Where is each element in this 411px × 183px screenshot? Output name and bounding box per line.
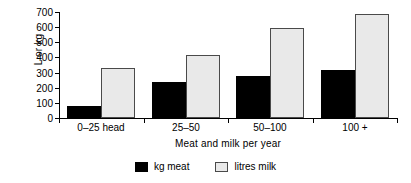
bar-kg-meat <box>152 82 186 118</box>
y-tick-mark <box>55 27 60 28</box>
y-tick-label: 500 <box>36 37 53 48</box>
black-square-icon <box>135 162 148 172</box>
y-tick-label: 300 <box>36 67 53 78</box>
y-tick-label: 400 <box>36 52 53 63</box>
y-tick-label: 200 <box>36 82 53 93</box>
bar-chart: L or kg 0100200300400500600700 0–25 head… <box>0 0 411 183</box>
bar-kg-meat <box>236 76 270 118</box>
x-category-label: 25–50 <box>172 122 200 133</box>
legend-item: kg meat <box>135 161 190 172</box>
y-tick-mark <box>55 57 60 58</box>
x-category-label: 50–100 <box>253 122 286 133</box>
bar-group <box>236 12 304 118</box>
bar-kg-meat <box>321 70 355 118</box>
legend-item-label: litres milk <box>234 161 276 172</box>
bar-litres-milk <box>355 14 389 118</box>
x-category-label: 100 + <box>342 122 367 133</box>
y-tick-label: 600 <box>36 22 53 33</box>
legend-item-label: kg meat <box>154 161 190 172</box>
bar-kg-meat <box>67 106 101 118</box>
plot-area: 0100200300400500600700 <box>59 12 397 119</box>
bar-group <box>67 12 135 118</box>
bar-litres-milk <box>270 28 304 118</box>
legend-item: litres milk <box>215 161 276 172</box>
bar-group <box>321 12 389 118</box>
y-tick-label: 100 <box>36 97 53 108</box>
bar-litres-milk <box>101 68 135 118</box>
x-category-label: 0–25 head <box>77 122 124 133</box>
y-tick-mark <box>55 103 60 104</box>
chart-legend: kg meatlitres milk <box>0 161 411 172</box>
y-tick-label: 700 <box>36 7 53 18</box>
y-tick-label: 0 <box>47 113 53 124</box>
bar-litres-milk <box>186 55 220 118</box>
y-tick-mark <box>55 12 60 13</box>
y-tick-mark <box>55 88 60 89</box>
x-axis-category-labels: 0–25 head25–5050–100100 + <box>59 122 397 136</box>
y-tick-mark <box>55 73 60 74</box>
y-tick-mark <box>55 42 60 43</box>
bar-group <box>152 12 220 118</box>
x-tick-mark <box>397 118 398 123</box>
gray-square-icon <box>215 162 228 172</box>
x-axis-title: Meat and milk per year <box>59 138 397 149</box>
